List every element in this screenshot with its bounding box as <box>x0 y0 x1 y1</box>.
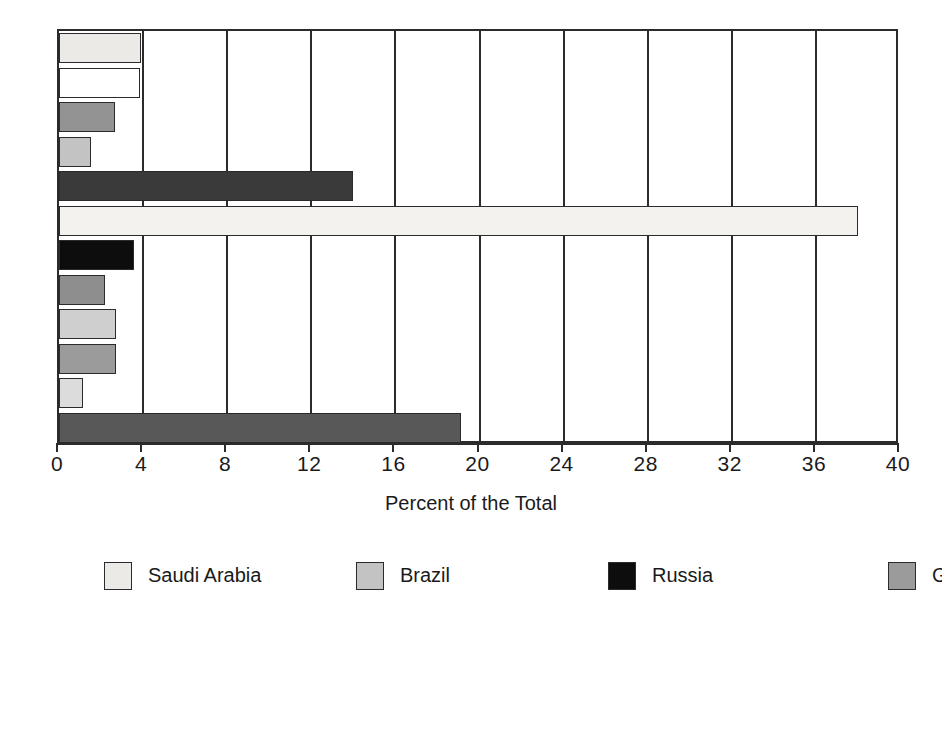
legend-label: Russia <box>652 564 713 587</box>
bar-france <box>59 102 115 132</box>
x-tick-mark <box>813 443 815 452</box>
x-tick-label: 24 <box>532 452 592 476</box>
legend-swatch-icon <box>356 562 384 590</box>
x-tick-label: 40 <box>868 452 928 476</box>
legend-label: Saudi Arabia <box>148 564 261 587</box>
bars-layer <box>59 31 896 441</box>
horizontal-bar-chart: 0481216202428323640 Percent of the Total… <box>0 0 942 756</box>
x-tick-mark <box>729 443 731 452</box>
bar-brazil <box>59 137 91 167</box>
legend-item-saudi-arabia[interactable]: Saudi Arabia <box>104 562 356 590</box>
bar-united-states <box>59 206 858 236</box>
x-tick-label: 12 <box>279 452 339 476</box>
bar-india <box>59 68 140 98</box>
x-tick-label: 8 <box>195 452 255 476</box>
x-tick-mark <box>897 443 899 452</box>
legend-swatch-icon <box>888 562 916 590</box>
x-tick-mark <box>561 443 563 452</box>
x-tick-mark <box>224 443 226 452</box>
legend-item-russia[interactable]: Russia <box>608 562 888 590</box>
x-tick-label: 32 <box>700 452 760 476</box>
x-tick-mark <box>392 443 394 452</box>
bar-south-korea <box>59 275 105 305</box>
bar-saudi-arabia <box>59 33 141 63</box>
x-tick-label: 36 <box>784 452 844 476</box>
x-tick-label: 4 <box>111 452 171 476</box>
bar-china <box>59 171 353 201</box>
x-tick-mark <box>308 443 310 452</box>
x-tick-label: 0 <box>27 452 87 476</box>
x-tick-label: 16 <box>363 452 423 476</box>
legend-item-brazil[interactable]: Brazil <box>356 562 608 590</box>
bar-united-kingdom <box>59 309 116 339</box>
bar-israel <box>59 378 83 408</box>
legend: Saudi ArabiaBrazilRussiaGermanyIndiaChin… <box>104 553 904 598</box>
bar-germany <box>59 344 116 374</box>
x-tick-mark <box>477 443 479 452</box>
x-tick-mark <box>645 443 647 452</box>
x-tick-mark <box>56 443 58 452</box>
x-tick-label: 28 <box>616 452 676 476</box>
x-axis-title: Percent of the Total <box>0 492 942 515</box>
legend-item-germany[interactable]: Germany <box>888 562 942 590</box>
plot-area <box>57 29 898 443</box>
x-tick-label: 20 <box>448 452 508 476</box>
bar-others <box>59 413 461 443</box>
legend-label: Brazil <box>400 564 450 587</box>
legend-swatch-icon <box>608 562 636 590</box>
bar-russia <box>59 240 134 270</box>
x-tick-mark <box>140 443 142 452</box>
legend-label: Germany <box>932 564 942 587</box>
legend-swatch-icon <box>104 562 132 590</box>
